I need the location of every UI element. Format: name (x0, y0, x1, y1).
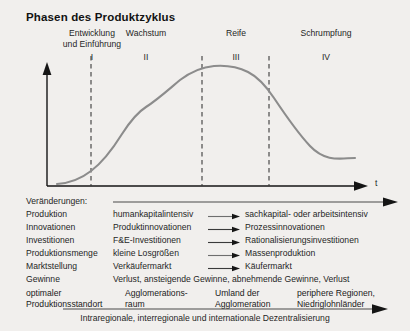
row-arrow-icon (208, 213, 241, 220)
row-label: Produktion (26, 209, 67, 219)
row-label: Produktionsmenge (26, 248, 98, 258)
location-cell-2-line1: Umland der (215, 288, 259, 298)
table-row: Produktionsmenge kleine Losgrößen Massen… (0, 248, 410, 260)
chart-svg (0, 0, 410, 200)
location-label-line1: optimaler (26, 288, 61, 298)
row-arrow-icon (208, 252, 241, 259)
figure-root: Phasen des Produktzyklus Entwicklung und… (0, 0, 410, 331)
row-to: Rationalisierungsinvestitionen (245, 235, 359, 245)
row-from: Verkäufermarkt (113, 261, 171, 271)
row-to: Prozessinnovationen (245, 222, 325, 232)
row-to: Käufermarkt (245, 261, 292, 271)
row-label: Investitionen (26, 235, 74, 245)
profit-row-label: Gewinne (26, 274, 60, 284)
table-header-label: Veränderungen: (26, 196, 87, 206)
table-row: Investitionen F&E-Investitionen Rational… (0, 235, 410, 247)
product-cycle-chart: Entwicklung und Einführung Wachstum Reif… (0, 0, 410, 200)
table-header-row: Veränderungen: (0, 196, 410, 208)
row-arrow-icon (208, 239, 241, 246)
location-cell-3-line1: periphere Regionen, (297, 288, 375, 298)
decentralisation-caption: Intraregionale, interregionale und inter… (0, 313, 410, 323)
row-from: Produktinnovationen (113, 222, 191, 232)
y-axis-arrowhead (43, 62, 52, 75)
row-from: kleine Losgrößen (113, 248, 179, 258)
table-row: Innovationen Produktinnovationen Prozess… (0, 222, 410, 234)
table-row: Marktstellung Verkäufermarkt Käufermarkt (0, 261, 410, 273)
x-axis-arrowhead (354, 181, 368, 191)
production-curve (57, 66, 355, 184)
profit-row: Gewinne Verlust, ansteigende Gewinne, ab… (0, 274, 410, 286)
row-arrow-icon (208, 265, 241, 272)
row-from: F&E-Investitionen (113, 235, 181, 245)
location-cell-1-line1: Agglomerations- (125, 288, 188, 298)
table-row: Produktion humankapitalintensiv sachkapi… (0, 209, 410, 221)
profit-row-text: Verlust, ansteigende Gewinne, abnehmende… (113, 274, 349, 284)
row-to: Massenproduktion (245, 248, 315, 258)
row-arrow-icon (208, 226, 241, 233)
row-from: humankapitalintensiv (113, 209, 193, 219)
overall-change-arrow (113, 197, 403, 209)
row-label: Innovationen (26, 222, 75, 232)
row-to: sachkapital- oder arbeitsintensiv (245, 209, 368, 219)
row-label: Marktstellung (26, 261, 77, 271)
